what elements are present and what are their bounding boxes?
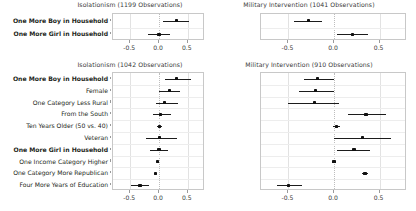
estimate-point	[163, 101, 166, 104]
estimate-point	[363, 172, 366, 175]
estimate-point	[158, 125, 161, 128]
gridline-row	[261, 120, 405, 121]
gridline-x--05	[288, 73, 289, 189]
gridline-row	[113, 28, 203, 29]
y-axis-tick	[110, 159, 111, 161]
x-axis-tick	[187, 40, 188, 43]
estimate-point	[352, 148, 355, 151]
estimate-point	[175, 77, 178, 80]
estimate-point	[156, 160, 159, 163]
estimate-point	[314, 89, 317, 92]
estimate-point	[361, 136, 364, 139]
x-axis-tick	[287, 40, 288, 43]
estimate-point	[138, 184, 141, 187]
gridline-x-05	[380, 73, 381, 189]
panel-top-right: Military Intervention (1041 Observations…	[208, 0, 416, 58]
y-axis-tick	[110, 112, 111, 114]
y-axis-label: One More Girl in Household	[14, 145, 109, 152]
gridline-row	[113, 167, 203, 168]
y-axis-label: Female	[86, 86, 108, 93]
gridline-x-05	[188, 14, 189, 39]
estimate-point	[332, 160, 335, 163]
gridline-row	[261, 108, 405, 109]
x-axis-tick-label: -0.5	[281, 44, 293, 51]
estimate-point	[157, 33, 160, 36]
gridline-row	[113, 108, 203, 109]
gridline-row	[261, 144, 405, 145]
x-axis-tick-label: 0.0	[328, 194, 338, 201]
y-axis-tick	[110, 183, 111, 185]
estimate-point	[351, 33, 354, 36]
gridline-x--05	[130, 73, 131, 189]
gridline-x-00	[334, 73, 335, 189]
gridline-x--05	[130, 14, 131, 39]
gridline-row	[113, 97, 203, 98]
gridline-row	[261, 156, 405, 157]
plot-area-top-left	[112, 13, 204, 40]
y-axis-tick	[110, 124, 111, 126]
gridline-x-05	[188, 73, 189, 189]
gridline-row	[113, 132, 203, 133]
estimate-point	[157, 148, 160, 151]
x-axis-tick-label: 0.5	[182, 194, 192, 201]
gridline-row	[261, 132, 405, 133]
y-axis-label: One Category More Republican	[13, 169, 108, 176]
gridline-row	[113, 179, 203, 180]
x-axis-tick	[158, 40, 159, 43]
x-axis-tick-label: -0.5	[281, 194, 293, 201]
y-axis-label: From the South	[61, 110, 108, 117]
estimate-point	[175, 19, 178, 22]
confidence-interval	[165, 79, 191, 80]
x-axis-tick	[187, 190, 188, 193]
gridline-row	[261, 167, 405, 168]
panel-title-bottom-right: Military Intervention (910 Observations)	[208, 61, 410, 69]
plot-area-top-right	[260, 13, 406, 40]
y-axis-tick	[110, 32, 111, 34]
y-axis-label: One Income Category Higher	[19, 157, 108, 164]
gridline-row	[261, 97, 405, 98]
coefficient-plot-figure: Isolationism (1199 Observations) One Mor…	[0, 0, 416, 211]
confidence-interval	[146, 138, 177, 139]
panel-title-top-left: Isolationism (1199 Observations)	[52, 1, 208, 9]
y-axis-tick	[110, 89, 111, 91]
estimate-point	[159, 113, 162, 116]
x-axis-tick-label: -0.5	[123, 194, 135, 201]
x-axis-tick	[129, 190, 130, 193]
panel-title-bottom-left: Isolationism (1042 Observations)	[52, 61, 208, 69]
panel-bottom-left: Isolationism (1042 Observations) One Mor…	[0, 58, 208, 211]
plot-area-bottom-left	[112, 72, 204, 190]
x-axis-tick-label: 0.5	[374, 44, 384, 51]
estimate-point	[364, 113, 367, 116]
y-axis-tick	[110, 136, 111, 138]
y-axis-tick	[110, 77, 111, 79]
confidence-interval	[153, 114, 171, 115]
y-axis-tick	[110, 19, 111, 21]
panel-bottom-right: Military Intervention (910 Observations)…	[208, 58, 416, 211]
x-axis-tick-label: 0.0	[153, 44, 163, 51]
estimate-point	[168, 89, 171, 92]
x-axis-tick	[333, 190, 334, 193]
estimate-point	[307, 19, 310, 22]
x-axis-tick-label: 0.0	[153, 194, 163, 201]
gridline-x-00	[334, 14, 335, 39]
y-axis-tick	[110, 100, 111, 102]
x-axis-tick	[158, 190, 159, 193]
gridline-row	[261, 85, 405, 86]
y-axis-label: Ten Years Older (50 vs. 40)	[26, 122, 108, 129]
gridline-row	[113, 85, 203, 86]
y-axis-label: Veteran	[84, 133, 108, 140]
y-axis-label: One More Girl in Household	[14, 30, 109, 37]
x-axis-tick	[333, 40, 334, 43]
estimate-point	[287, 184, 290, 187]
panel-title-top-right: Military Intervention (1041 Observations…	[208, 1, 410, 9]
y-axis-tick	[110, 148, 111, 150]
y-axis-label: Four More Years of Education	[19, 181, 108, 188]
gridline-x-05	[380, 14, 381, 39]
y-axis-label: One More Boy in Household	[13, 16, 108, 23]
plot-area-bottom-right	[260, 72, 406, 190]
gridline-row	[113, 144, 203, 145]
estimate-point	[154, 172, 157, 175]
gridline-x--05	[288, 14, 289, 39]
x-axis-tick-label: 0.5	[374, 194, 384, 201]
panel-top-left: Isolationism (1199 Observations) One Mor…	[0, 0, 208, 58]
